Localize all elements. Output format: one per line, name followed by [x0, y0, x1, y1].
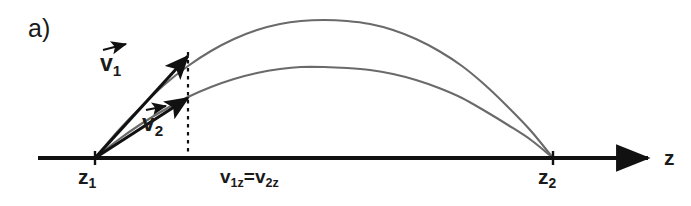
axis-point-label-z2-sub: 2 — [549, 175, 557, 191]
axis-point-label-z1: z1 — [78, 166, 96, 187]
vector-label-v1-base: v — [100, 50, 113, 76]
axis-label-z: z — [664, 147, 675, 168]
equality-operator: = — [244, 166, 255, 187]
equality-left-sub: 1z — [231, 176, 244, 190]
equality-right-sub: 2z — [266, 176, 279, 190]
axis-point-label-z1-sub: 1 — [89, 175, 97, 191]
vector-label-v2: v2 — [142, 112, 163, 135]
axis-point-label-z2-base: z — [538, 165, 549, 188]
vector-label-v1: v1 — [100, 52, 121, 75]
trajectory-curves — [95, 20, 553, 158]
panel-letter-label: a) — [28, 16, 50, 41]
equality-right-base: v — [255, 166, 266, 187]
axis-point-label-z2: z2 — [538, 166, 556, 187]
equality-left-base: v — [220, 166, 231, 187]
velocity-equality-label: v1z=v2z — [220, 167, 279, 186]
vector-label-v2-base: v — [142, 110, 155, 136]
vector-label-v1-sub: 1 — [113, 62, 121, 79]
projectile-trajectory-figure: a) v1 v2 z1 z2 v1z=v2z z — [0, 0, 691, 206]
vector-label-v2-sub: 2 — [155, 122, 163, 139]
trajectory-curve-steep — [95, 20, 553, 158]
z-axis-group — [38, 151, 648, 165]
figure-canvas — [0, 0, 691, 206]
axis-point-label-z1-base: z — [78, 165, 89, 188]
